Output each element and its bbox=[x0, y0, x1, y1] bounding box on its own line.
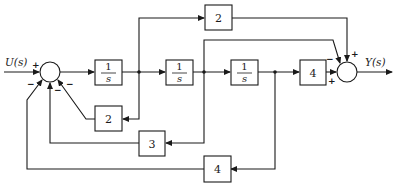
svg-text:1: 1 bbox=[105, 61, 111, 72]
left-sum-sign-fb-mid: − bbox=[54, 85, 62, 95]
integrator-block-2: 1 s bbox=[166, 60, 193, 85]
wire-feedback-2-to-left-sum bbox=[58, 80, 95, 119]
svg-text:s: s bbox=[177, 73, 182, 84]
right-sum-sign-left: + bbox=[328, 76, 336, 86]
feedback-gain-block-3: 3 bbox=[139, 131, 165, 156]
feedback-gain-block-4: 4 bbox=[204, 156, 231, 182]
left-sum-sign-fb-left: − bbox=[27, 79, 35, 89]
left-sum-sign-fb-right: − bbox=[66, 79, 74, 89]
svg-text:2: 2 bbox=[215, 12, 222, 25]
wire-to-feedback-4 bbox=[231, 72, 275, 169]
svg-text:s: s bbox=[106, 73, 111, 84]
feedback-gain-block-2: 2 bbox=[95, 106, 122, 131]
svg-text:s: s bbox=[242, 73, 247, 84]
right-sum-sign-top: + bbox=[351, 49, 359, 59]
integrator-block-3: 1 s bbox=[231, 60, 258, 85]
input-label: U(s) bbox=[5, 56, 27, 68]
svg-text:1: 1 bbox=[241, 61, 247, 72]
svg-text:2: 2 bbox=[105, 113, 112, 126]
block-diagram: U(s) + 1 s 1 s 1 s 4 bbox=[0, 0, 394, 187]
svg-text:4: 4 bbox=[214, 163, 221, 176]
output-label: Y(s) bbox=[365, 56, 386, 68]
right-summing-junction bbox=[337, 62, 357, 82]
svg-text:4: 4 bbox=[310, 67, 317, 80]
integrator-block-1: 1 s bbox=[95, 60, 122, 85]
left-sum-sign-input: + bbox=[32, 60, 40, 70]
left-summing-junction bbox=[40, 62, 60, 82]
svg-text:3: 3 bbox=[149, 138, 156, 151]
forward-gain-block: 4 bbox=[300, 60, 326, 85]
right-sum-sign-upper-left: − bbox=[326, 54, 334, 64]
wire-to-feedback-2 bbox=[123, 72, 139, 119]
svg-text:1: 1 bbox=[176, 61, 182, 72]
feedforward-gain-block: 2 bbox=[205, 5, 232, 30]
